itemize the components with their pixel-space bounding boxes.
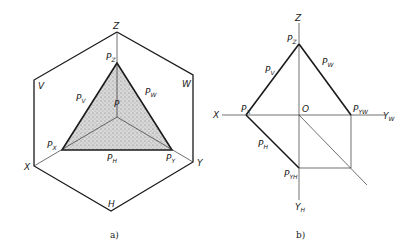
label-x: X	[212, 110, 220, 120]
caption-b: b)	[296, 230, 305, 240]
label-yw: YW	[383, 111, 396, 122]
label-y: Y	[197, 158, 204, 168]
diagonal-45	[299, 115, 367, 185]
label-pv: PV	[265, 65, 275, 76]
label-pz: PZ	[106, 52, 116, 63]
label-v: V	[38, 81, 45, 91]
figure-a: Z X Y H V W P PZ PX PY PV PW PH a)	[23, 21, 204, 240]
label-p: P	[114, 99, 120, 109]
figure-b: Z X O YW YH PZ PX PV PW PH PYW PYH b)	[212, 13, 396, 240]
label-z: Z	[294, 13, 302, 23]
label-x: X	[23, 162, 31, 172]
trace-ph	[246, 115, 299, 168]
label-ph: PH	[107, 153, 117, 164]
label-w: W	[182, 79, 192, 89]
label-z: Z	[112, 21, 120, 31]
label-pz: PZ	[287, 34, 297, 45]
trace-pv	[246, 44, 299, 115]
label-pw: PW	[322, 57, 334, 68]
label-yh: YH	[295, 202, 306, 213]
label-px: PX	[47, 140, 57, 151]
label-px: PX	[241, 104, 251, 115]
caption-a: a)	[110, 230, 119, 240]
label-pv: PV	[76, 93, 86, 104]
label-h: H	[108, 199, 115, 209]
projection-diagram: Z X Y H V W P PZ PX PY PV PW PH a) Z X O…	[0, 0, 415, 249]
label-pw: PW	[145, 87, 157, 98]
label-ph: PH	[258, 139, 268, 150]
label-o: O	[302, 104, 309, 114]
label-pyh: PYH	[284, 169, 298, 180]
label-pyw: PYW	[353, 104, 369, 115]
label-py: PY	[166, 153, 176, 164]
